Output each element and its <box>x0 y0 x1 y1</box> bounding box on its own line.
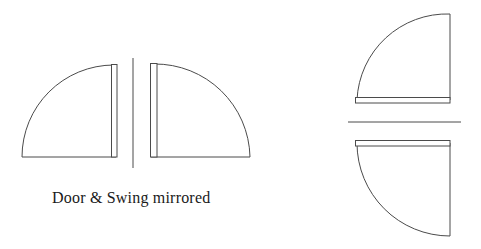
swing-arc-right-hand <box>154 64 250 157</box>
door-leaf-left-hand <box>112 65 118 158</box>
door-leaf-right-hand <box>151 64 158 158</box>
swing-arc-left-hand <box>22 65 114 157</box>
door-swing-drawing <box>0 0 481 249</box>
drawing-canvas: Door & Swing mirrored <box>0 0 481 249</box>
door-leaf-top-right <box>356 98 451 104</box>
door-swing-right-hand <box>151 64 251 158</box>
caption-label: Door & Swing mirrored <box>52 188 210 208</box>
door-swing-left-hand <box>22 65 117 158</box>
door-swing-top-right <box>356 14 451 103</box>
swing-arc-bottom-right <box>357 143 450 236</box>
swing-arc-top-right <box>357 14 450 100</box>
door-leaf-bottom-right <box>356 141 451 147</box>
door-swing-bottom-right <box>356 141 451 237</box>
